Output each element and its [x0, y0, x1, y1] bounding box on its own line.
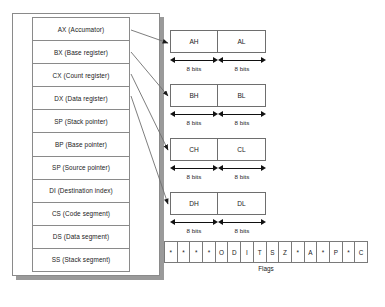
connector-arrows	[0, 0, 385, 307]
register-diagram: AX (Accumator) BX (Base register) CX (Co…	[0, 0, 385, 307]
connector-bx-bh	[131, 52, 168, 96]
connector-ax-ah	[131, 30, 168, 43]
